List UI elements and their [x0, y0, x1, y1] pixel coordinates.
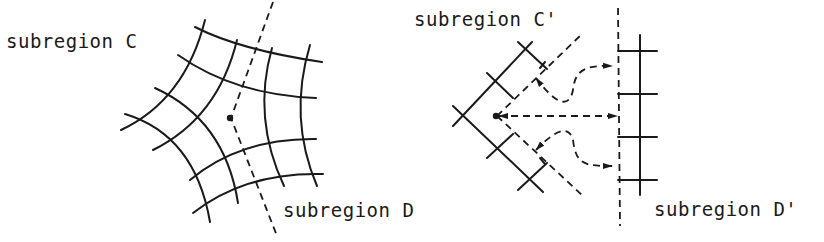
mesh-line	[125, 114, 210, 222]
arrow-upper	[536, 66, 612, 102]
tick	[518, 163, 547, 190]
inner-dashed-lower	[497, 116, 583, 196]
inner-dashed-upper	[497, 33, 583, 116]
right-boundary-dashed-line	[618, 8, 620, 226]
singular-point	[227, 115, 233, 121]
v-arm-upper	[453, 42, 532, 126]
label-subregion-d: subregion D	[283, 199, 414, 221]
right-mesh	[453, 8, 657, 226]
label-subregion-d-prime: subregion D'	[654, 198, 797, 220]
tick	[487, 134, 513, 158]
figure: subregion C subregion D subregion C' sub…	[0, 0, 824, 242]
mesh-line	[155, 88, 238, 203]
label-subregion-c: subregion C	[6, 30, 137, 52]
arrow-lower	[536, 131, 612, 166]
mesh-line	[178, 55, 316, 98]
mesh-line	[195, 27, 322, 62]
mesh-line	[264, 48, 284, 186]
mapped-point	[493, 113, 499, 119]
label-subregion-c-prime: subregion C'	[414, 8, 557, 30]
mesh-line	[301, 45, 317, 186]
mesh-line	[153, 40, 237, 150]
